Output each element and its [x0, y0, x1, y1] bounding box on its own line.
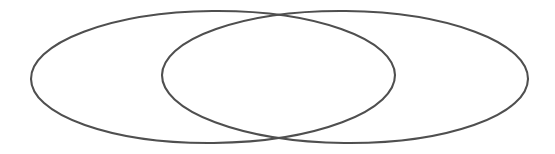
- venn-diagram-figure: [0, 0, 555, 154]
- venn-diagram-canvas: [0, 0, 555, 154]
- diagram-background: [0, 0, 555, 154]
